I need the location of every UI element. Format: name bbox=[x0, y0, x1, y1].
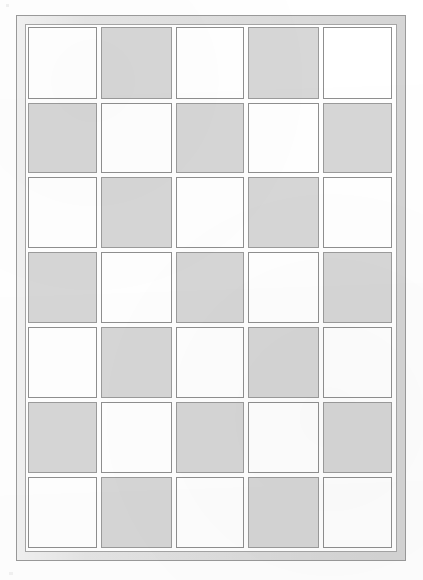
panel-cell bbox=[323, 252, 392, 323]
panel-cell bbox=[176, 477, 244, 548]
panel-cell bbox=[323, 103, 392, 173]
panel-cell bbox=[176, 27, 244, 99]
panel-cell bbox=[176, 103, 244, 173]
panel-cell bbox=[28, 402, 97, 473]
panel-cell bbox=[101, 477, 172, 548]
panel-cell bbox=[248, 27, 319, 99]
page-canvas bbox=[0, 0, 423, 580]
panel-cell bbox=[101, 327, 172, 398]
inner-frame bbox=[25, 24, 397, 552]
panel-cell bbox=[248, 177, 319, 248]
panel-cell bbox=[28, 477, 97, 548]
scan-speck-top-left bbox=[6, 4, 9, 7]
panel-cell bbox=[176, 327, 244, 398]
panel-cell bbox=[101, 103, 172, 173]
panel-grid bbox=[28, 27, 394, 549]
panel-cell bbox=[28, 252, 97, 323]
panel-cell bbox=[323, 27, 392, 99]
panel-cell bbox=[28, 327, 97, 398]
panel-cell bbox=[248, 252, 319, 323]
panel-cell bbox=[323, 327, 392, 398]
panel-cell bbox=[323, 477, 392, 548]
panel-cell bbox=[28, 27, 97, 99]
panel-cell bbox=[28, 177, 97, 248]
panel-cell bbox=[176, 177, 244, 248]
panel-cell bbox=[248, 327, 319, 398]
panel-cell bbox=[248, 103, 319, 173]
panel-cell bbox=[323, 402, 392, 473]
panel-cell bbox=[101, 402, 172, 473]
scan-speck-bottom-left bbox=[9, 572, 13, 575]
panel-cell bbox=[101, 27, 172, 99]
panel-cell bbox=[248, 477, 319, 548]
panel-cell bbox=[101, 252, 172, 323]
panel-cell bbox=[176, 252, 244, 323]
panel-cell bbox=[323, 177, 392, 248]
panel-cell bbox=[101, 177, 172, 248]
panel-cell bbox=[248, 402, 319, 473]
panel-cell bbox=[28, 103, 97, 173]
panel-cell bbox=[176, 402, 244, 473]
